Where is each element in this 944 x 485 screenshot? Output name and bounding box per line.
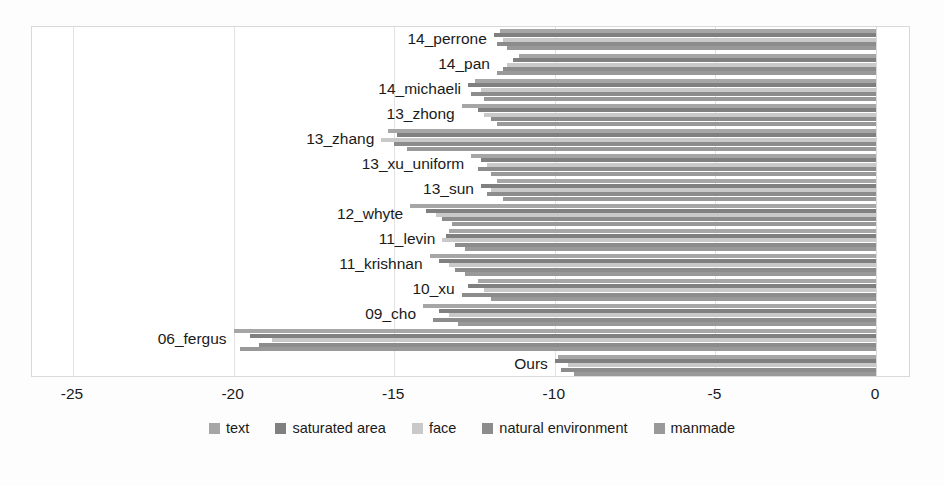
bar-segment [259, 343, 876, 347]
bar-segment [519, 54, 876, 58]
legend-item[interactable]: manmade [654, 420, 735, 436]
bar-segment [491, 188, 876, 192]
x-axis-tick-label: -5 [684, 385, 744, 403]
category-label: 14_michaeli [0, 81, 461, 97]
category-label: 14_pan [0, 56, 490, 72]
bar-segment [507, 63, 876, 67]
legend-item[interactable]: natural environment [482, 420, 627, 436]
bar-segment [497, 71, 876, 75]
bar-segment [558, 355, 876, 359]
bar-segment [446, 234, 876, 238]
bar-segment [478, 108, 876, 112]
bar-segment [462, 104, 876, 108]
bar-segment [497, 179, 876, 183]
chart-plot-frame [31, 26, 910, 377]
legend-swatch-icon [654, 423, 665, 434]
bar-segment [574, 372, 876, 376]
category-label: 10_xu [0, 281, 455, 297]
bar-segment [468, 83, 876, 87]
legend-swatch-icon [275, 423, 286, 434]
legend-swatch-icon [412, 423, 423, 434]
bar-segment [497, 122, 876, 126]
category-label: 13_xu_uniform [0, 156, 464, 172]
bar-segment [452, 222, 876, 226]
bar-segment [471, 92, 876, 96]
bar-segment [462, 293, 876, 297]
bar-segment [465, 247, 876, 251]
bar-segment [410, 204, 876, 208]
bar-segment [465, 272, 876, 276]
bar-segment [433, 318, 876, 322]
bar-segment [423, 304, 876, 308]
category-label: 11_krishnan [0, 256, 423, 272]
x-axis-tick-label: 0 [845, 385, 905, 403]
legend-label: saturated area [292, 420, 386, 436]
bar-segment [449, 229, 876, 233]
bar-segment [426, 209, 876, 213]
category-label: 13_sun [0, 181, 474, 197]
bar-segment [250, 334, 876, 338]
legend-label: natural environment [499, 420, 627, 436]
legend-swatch-icon [482, 423, 493, 434]
bar-segment [388, 129, 876, 133]
bar-segment [503, 67, 876, 71]
legend-label: text [226, 420, 249, 436]
x-axis-tick-label: -20 [203, 385, 263, 403]
bar-segment [513, 58, 876, 62]
legend-label: manmade [671, 420, 735, 436]
bar-segment [491, 117, 876, 121]
bar-segment [430, 254, 876, 258]
bar-segment [436, 213, 876, 217]
bar-segment [487, 192, 876, 196]
bar-segment [478, 167, 876, 171]
category-label: 14_perrone [0, 31, 487, 47]
x-axis-tick-label: -25 [42, 385, 102, 403]
bar-segment [494, 33, 876, 37]
legend-swatch-icon [209, 423, 220, 434]
category-label: 11_levin [0, 231, 435, 247]
category-label: 13_zhong [0, 106, 455, 122]
category-label: 09_cho [0, 306, 416, 322]
bar-segment [381, 138, 876, 142]
legend-item[interactable]: text [209, 420, 249, 436]
bar-segment [468, 284, 876, 288]
bar-segment [478, 279, 876, 283]
x-axis-tick-label: -15 [363, 385, 423, 403]
bar-segment [475, 79, 877, 83]
legend-item[interactable]: saturated area [275, 420, 386, 436]
bar-segment [484, 288, 876, 292]
bar-segment [397, 133, 876, 137]
bar-segment [484, 97, 876, 101]
category-label: 06_fergus [0, 331, 227, 347]
legend-item[interactable]: face [412, 420, 456, 436]
bar-segment [491, 172, 876, 176]
bar-segment [503, 197, 876, 201]
bar-segment [568, 363, 876, 367]
bar-segment [555, 359, 876, 363]
chart-legend: textsaturated areafacenatural environmen… [0, 420, 944, 436]
category-label: Ours [0, 356, 548, 372]
bar-segment [471, 154, 876, 158]
bar-segment [481, 184, 876, 188]
legend-label: face [429, 420, 456, 436]
bar-segment [507, 46, 876, 50]
bar-segment [240, 347, 876, 351]
chart-container: 14_perrone14_pan14_michaeli13_zhong13_zh… [0, 0, 944, 485]
plot-area [32, 27, 909, 376]
bar-segment [458, 322, 876, 326]
bar-segment [500, 29, 876, 33]
bar-segment [234, 329, 876, 333]
x-axis-tick-label: -10 [524, 385, 584, 403]
bar-segment [407, 147, 876, 151]
bar-segment [449, 263, 876, 267]
bar-segment [439, 259, 876, 263]
bar-segment [491, 297, 876, 301]
bar-segment [449, 313, 876, 317]
bar-segment [561, 368, 876, 372]
bar-segment [455, 243, 876, 247]
bar-segment [497, 42, 876, 46]
bar-segment [272, 338, 876, 342]
bar-segment [481, 88, 876, 92]
bar-segment [442, 217, 876, 221]
bar-segment [394, 142, 876, 146]
